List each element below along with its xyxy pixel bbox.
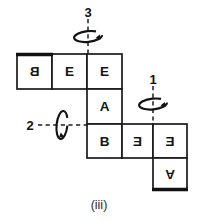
figure-canvas: B E E A B bbox=[0, 0, 198, 222]
net-cell-label-mirrored-b: B bbox=[29, 64, 39, 79]
cube-net-figure: B E E A B bbox=[0, 0, 198, 222]
net-cell-label-e-upright: E bbox=[65, 64, 74, 79]
net-cell-bottom-right: E bbox=[153, 124, 187, 158]
figure-caption: (iii) bbox=[91, 198, 108, 212]
net-cell-label-b-upright: B bbox=[100, 134, 110, 149]
net-cell-bottom-left: B bbox=[87, 124, 122, 158]
cube-net-group: B E E A B bbox=[16, 54, 188, 190]
rotation-axis-3: 3 bbox=[74, 5, 103, 58]
axis-2-arrowhead-icon bbox=[59, 133, 64, 138]
net-cell-bottom-mid: E bbox=[122, 124, 153, 158]
rotation-axis-2: 2 bbox=[26, 111, 91, 140]
net-cell-top-left: B bbox=[17, 54, 52, 89]
rotation-axis-1: 1 bbox=[139, 72, 168, 128]
net-cell-middle: A bbox=[87, 89, 122, 124]
net-cell-label-mirrored-e-2: E bbox=[165, 134, 174, 149]
net-cell-label-mirrored-e: E bbox=[133, 134, 142, 149]
net-cell-top-mid: E bbox=[52, 54, 87, 89]
net-cell-label-e-upright-2: E bbox=[100, 64, 109, 79]
axis-1-label: 1 bbox=[149, 72, 156, 87]
net-cell-last: A bbox=[153, 158, 187, 190]
axis-2-label: 2 bbox=[26, 118, 33, 133]
net-cell-top-right: E bbox=[87, 54, 122, 89]
net-cell-label-a-rotated-180: A bbox=[165, 167, 175, 182]
axis-3-label: 3 bbox=[84, 5, 91, 20]
net-cell-label-a-upright: A bbox=[100, 99, 110, 114]
